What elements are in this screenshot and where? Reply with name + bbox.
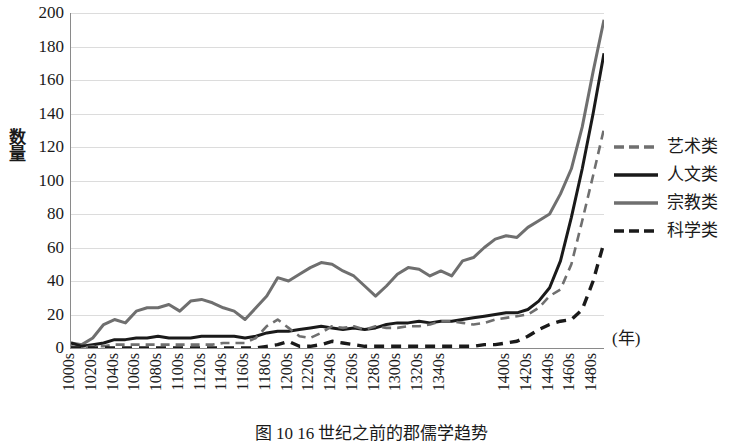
legend-item-宗教类[interactable]: 宗教类 <box>613 189 743 217</box>
plot-area <box>70 13 604 349</box>
y-tick-160: 160 <box>14 71 64 88</box>
legend: 艺术类人文类宗教类科学类 <box>613 133 743 245</box>
x-tick-1080s: 1080s <box>148 353 164 391</box>
x-tick-1140s: 1140s <box>213 353 229 391</box>
legend-item-科学类[interactable]: 科学类 <box>613 217 743 245</box>
y-tick-200: 200 <box>14 4 64 21</box>
legend-swatch-icon <box>613 196 659 210</box>
x-tick-1100s: 1100s <box>170 353 186 391</box>
y-tick-120: 120 <box>14 138 64 155</box>
x-tick-1460s: 1460s <box>561 353 577 391</box>
series-lines <box>71 13 604 348</box>
x-tick-1440s: 1440s <box>540 353 556 391</box>
x-tick-1240s: 1240s <box>322 353 338 391</box>
x-tick-1280s: 1280s <box>366 353 382 391</box>
y-tick-140: 140 <box>14 105 64 122</box>
x-tick-1220s: 1220s <box>300 353 316 391</box>
x-tick-1180s: 1180s <box>257 353 273 391</box>
x-axis-unit-note: (年) <box>612 330 640 348</box>
legend-label: 宗教类 <box>667 194 718 212</box>
y-tick-40: 40 <box>14 272 64 289</box>
x-tick-1120s: 1120s <box>192 353 208 391</box>
y-tick-0: 0 <box>14 339 64 356</box>
legend-swatch-icon <box>613 224 659 238</box>
legend-label: 人文类 <box>667 166 718 184</box>
figure-caption: 图 10 16 世纪之前的郡儒学趋势 <box>0 424 743 441</box>
x-tick-1000s: 1000s <box>61 353 77 391</box>
x-tick-1060s: 1060s <box>126 353 142 391</box>
x-tick-1020s: 1020s <box>83 353 99 391</box>
y-tick-180: 180 <box>14 38 64 55</box>
x-tick-1340s: 1340s <box>431 353 447 391</box>
series-line-人文类 <box>71 53 604 346</box>
y-tick-20: 20 <box>14 306 64 323</box>
series-line-艺术类 <box>71 129 604 348</box>
legend-item-人文类[interactable]: 人文类 <box>613 161 743 189</box>
legend-item-艺术类[interactable]: 艺术类 <box>613 133 743 161</box>
x-tick-1160s: 1160s <box>235 353 251 391</box>
x-tick-1480s: 1480s <box>583 353 599 391</box>
x-tick-1300s: 1300s <box>387 353 403 391</box>
x-tick-1420s: 1420s <box>518 353 534 391</box>
x-tick-1320s: 1320s <box>409 353 425 391</box>
legend-swatch-icon <box>613 168 659 182</box>
y-tick-100: 100 <box>14 172 64 189</box>
x-tick-1400s: 1400s <box>496 353 512 391</box>
y-tick-60: 60 <box>14 239 64 256</box>
legend-swatch-icon <box>613 140 659 154</box>
x-tick-1200s: 1200s <box>279 353 295 391</box>
y-tick-80: 80 <box>14 205 64 222</box>
legend-label: 科学类 <box>667 222 718 240</box>
series-line-科学类 <box>71 242 604 348</box>
x-tick-1040s: 1040s <box>105 353 121 391</box>
series-line-宗教类 <box>71 20 604 345</box>
x-tick-1260s: 1260s <box>344 353 360 391</box>
legend-label: 艺术类 <box>667 138 718 156</box>
chart-figure: 数量 200180160140120100806040200 1000s1020… <box>0 0 743 441</box>
